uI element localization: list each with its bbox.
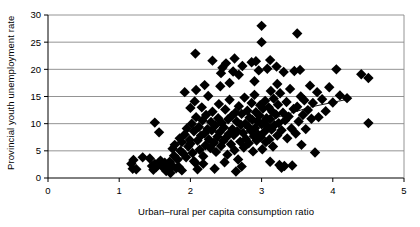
svg-text:3: 3 xyxy=(259,185,264,196)
scatter-chart-figure: Provincial youth unemployment rate 05101… xyxy=(0,0,420,227)
svg-text:1: 1 xyxy=(117,185,122,196)
svg-text:25: 25 xyxy=(30,37,41,48)
svg-text:5: 5 xyxy=(36,145,41,156)
data-points xyxy=(126,21,373,179)
svg-text:2: 2 xyxy=(188,185,193,196)
plot-area: 051015202530 012345 xyxy=(0,0,420,227)
svg-text:15: 15 xyxy=(30,91,41,102)
x-axis-ticks: 012345 xyxy=(45,178,406,196)
svg-text:5: 5 xyxy=(401,185,406,196)
svg-text:10: 10 xyxy=(30,118,41,129)
svg-text:0: 0 xyxy=(36,172,41,183)
svg-text:30: 30 xyxy=(30,9,41,20)
svg-text:4: 4 xyxy=(330,185,335,196)
x-axis-label: Urban–rural per capita consumption ratio xyxy=(48,206,404,217)
svg-text:0: 0 xyxy=(45,185,50,196)
svg-text:20: 20 xyxy=(30,64,41,75)
y-axis-ticks: 051015202530 xyxy=(30,9,48,183)
